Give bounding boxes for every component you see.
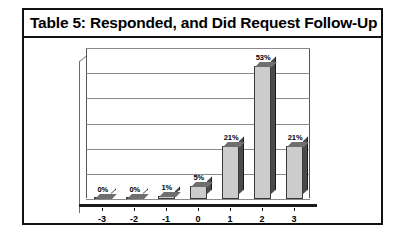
bar-value-label: 5% [193,173,204,182]
x-tick-mark [134,208,135,211]
bar-top-face [127,194,149,199]
x-tick-label: -3 [98,214,106,224]
chart-title-bar: Table 5: Responded, and Did Request Foll… [24,10,381,38]
x-tick-mark [262,208,263,211]
chart-figure: Table 5: Responded, and Did Request Foll… [22,8,383,225]
bar-slot: 0% [118,48,150,199]
bar-value-label: 21% [224,133,239,142]
bar-value-label: 53% [256,53,271,62]
gridline [86,199,310,200]
bar-column[interactable]: 0% [94,197,111,199]
bar-front-face [286,146,303,199]
x-axis-tick-labels: -3-2-10123 [86,211,310,227]
bar-slot: 21% [278,48,310,199]
bar-column[interactable]: 5% [190,186,207,199]
bar-column[interactable]: 0% [126,197,143,199]
x-tick: -3 [86,211,118,227]
bar-front-face [222,146,239,199]
bar-column[interactable]: 21% [286,146,303,199]
x-tick: 1 [214,211,246,227]
bar-column[interactable]: 21% [222,146,239,199]
bar-column[interactable]: 1% [158,196,175,199]
x-tick-label: 3 [291,214,296,224]
bar-front-face [254,66,271,199]
x-tick-label: 0 [195,214,200,224]
bar-slot: 1% [150,48,182,199]
plot-area: 0%0%1%5%21%53%21% [86,48,310,199]
x-tick-mark [102,208,103,211]
x-tick: 3 [278,211,310,227]
bar-top-face [255,62,277,67]
x-tick-label: 1 [227,214,232,224]
x-tick-mark [198,208,199,211]
plot-wrapper: 0%0%1%5%21%53%21% -3-2-10123 [24,38,381,223]
bar-column[interactable]: 53% [254,66,271,199]
bar-side-face [271,56,276,194]
x-tick: -2 [118,211,150,227]
bar-value-label: 21% [288,133,303,142]
bar-top-face [95,194,117,199]
bar-slot: 21% [214,48,246,199]
x-tick-mark [230,208,231,211]
bar-value-label: 0% [129,185,140,194]
bar-slot: 53% [246,48,278,199]
bar-value-label: 1% [161,183,172,192]
x-tick: -1 [150,211,182,227]
x-tick-label: -2 [130,214,138,224]
x-tick-mark [166,208,167,211]
bar-top-face [159,192,181,197]
bar-series: 0%0%1%5%21%53%21% [86,48,310,199]
x-tick: 0 [182,211,214,227]
bar-slot: 0% [86,48,118,199]
page-title: Table 5: Responded, and Did Request Foll… [24,14,377,32]
bar-slot: 5% [182,48,214,199]
x-tick-label: -1 [162,214,170,224]
x-tick: 2 [246,211,278,227]
x-axis-line [79,204,317,207]
x-tick-label: 2 [259,214,264,224]
bar-front-face [190,186,207,199]
bar-value-label: 0% [97,185,108,194]
x-tick-mark [294,208,295,211]
